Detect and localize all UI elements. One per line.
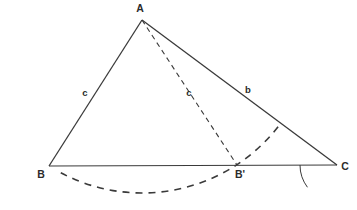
triangle-figure-canvas: A B B' C c c b [0,0,357,210]
vertex-label-a: A [136,2,144,14]
geometry-diagram: A B B' C c c b [0,0,357,210]
side-label-c-left: c [82,87,87,98]
vertex-label-c: C [341,160,349,172]
side-label-c-middle: c [186,87,191,98]
vertex-label-b: B [37,168,45,180]
figure-background [0,0,357,210]
vertex-label-b-prime: B' [235,168,245,180]
side-label-b: b [245,84,251,95]
